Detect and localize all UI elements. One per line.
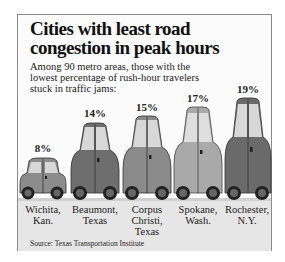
city-label-beaumont: Beaumont, Texas — [67, 204, 123, 226]
infographic-frame: Cities with least road congestion in pea… — [17, 14, 272, 251]
city-label-line: Rochester, — [219, 204, 275, 215]
city-label-line: Wichita, — [15, 204, 71, 215]
city-label-line: Spokane, — [170, 204, 226, 215]
city-label-line: N.Y. — [219, 215, 275, 226]
city-label-line: Christi, — [119, 215, 175, 226]
value-label-beaumont: 14% — [70, 107, 120, 119]
title-line-1: Cities with least road — [30, 19, 270, 38]
title-line-2: congestion in peak hours — [30, 38, 270, 57]
city-label-line: Corpus — [119, 204, 175, 215]
value-label-rochester: 19% — [223, 83, 273, 95]
value-label-spokane: 17% — [173, 92, 223, 104]
chart-title: Cities with least road congestion in pea… — [30, 19, 270, 57]
city-label-rochester: Rochester, N.Y. — [219, 204, 275, 226]
city-label-line: Kan. — [15, 215, 71, 226]
value-label-corpus-christi: 15% — [122, 101, 172, 113]
value-label-wichita: 8% — [18, 142, 68, 154]
city-label-line: Wash. — [170, 215, 226, 226]
city-label-line: Texas — [67, 215, 123, 226]
subtitle-line-2: lowest percentage of rush-hour travelers — [30, 72, 230, 83]
car-icon-spokane — [173, 106, 223, 201]
car-icon-beaumont — [70, 122, 120, 201]
subtitle-line-1: Among 90 metro areas, those with the — [30, 61, 230, 72]
city-label-spokane: Spokane, Wash. — [170, 204, 226, 226]
city-label-line: Texas — [119, 226, 175, 237]
car-icon-corpus-christi — [122, 115, 172, 201]
city-label-line: Beaumont, — [67, 204, 123, 215]
car-icon-wichita — [19, 157, 67, 201]
city-label-corpus-christi: Corpus Christi, Texas — [119, 204, 175, 237]
chart-subtitle: Among 90 metro areas, those with the low… — [30, 61, 230, 94]
car-icon-rochester — [224, 97, 272, 201]
source-note: Source: Texas Transportation Institute — [30, 239, 144, 248]
city-label-wichita: Wichita, Kan. — [15, 204, 71, 226]
